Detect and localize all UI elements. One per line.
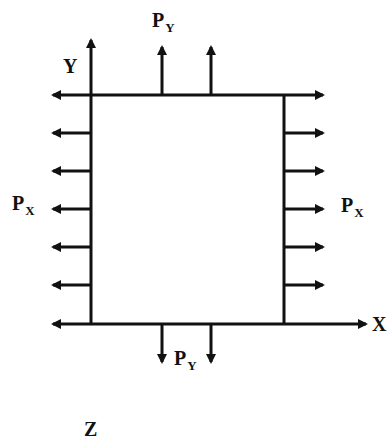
px-left-sub: X xyxy=(25,203,34,218)
right-px-arrows xyxy=(284,95,323,285)
py-top-label: PY xyxy=(152,10,175,30)
x-axis-text: X xyxy=(372,313,386,335)
y-axis-text: Y xyxy=(63,55,77,77)
top-py-arrows xyxy=(162,47,211,95)
x-axis-label: X xyxy=(372,314,386,334)
plate-outline xyxy=(91,95,284,324)
py-bottom-label: PY xyxy=(174,348,197,368)
py-bottom-sub: Y xyxy=(187,358,196,373)
z-axis-text: Z xyxy=(84,418,97,440)
px-right-label: PX xyxy=(341,195,364,215)
px-right-base: P xyxy=(341,194,353,216)
py-top-sub: Y xyxy=(165,20,174,35)
px-left-base: P xyxy=(12,192,24,214)
z-axis-label: Z xyxy=(84,419,97,439)
py-top-base: P xyxy=(152,9,164,31)
px-left-label: PX xyxy=(12,193,35,213)
left-px-arrows xyxy=(53,95,91,324)
py-bottom-base: P xyxy=(174,347,186,369)
px-right-sub: X xyxy=(354,205,363,220)
y-axis-label: Y xyxy=(63,56,77,76)
